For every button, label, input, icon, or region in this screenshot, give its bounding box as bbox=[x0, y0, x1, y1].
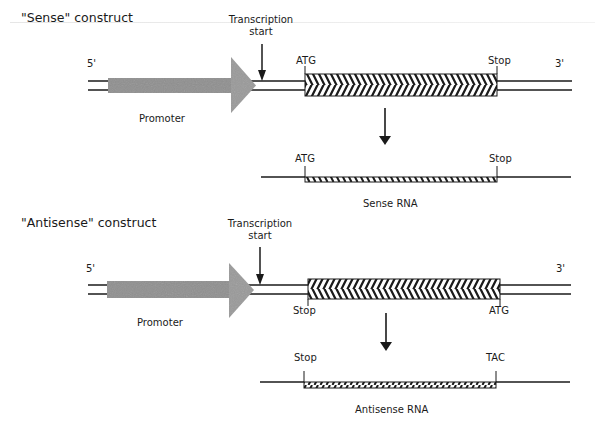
antisense-stop-label: Stop bbox=[293, 305, 316, 317]
antisense-five-prime-label: 5' bbox=[86, 263, 95, 275]
antisense-rna-caption: Antisense RNA bbox=[355, 404, 428, 416]
antisense-rna bbox=[260, 371, 570, 388]
antisense-rna-tac-label: TAC bbox=[486, 352, 505, 364]
sense-transcription-label: Transcription start bbox=[229, 14, 293, 38]
sense-coding-region bbox=[305, 66, 497, 96]
antisense-transcription-label: Transcription start bbox=[228, 218, 292, 242]
sense-transcription-start-arrow bbox=[258, 44, 266, 81]
transcription-label-line1: Transcription bbox=[228, 218, 292, 230]
antisense-coding-region bbox=[308, 279, 500, 306]
sense-rna bbox=[261, 166, 571, 182]
sense-construct-title: "Sense" construct bbox=[21, 11, 133, 25]
antisense-transcription-arrow bbox=[380, 313, 392, 351]
sense-stop-label: Stop bbox=[488, 55, 511, 67]
sense-rna-atg-label: ATG bbox=[295, 153, 315, 165]
antisense-promoter-label: Promoter bbox=[137, 317, 183, 329]
transcription-label-line1: Transcription bbox=[229, 14, 293, 26]
sense-promoter-arrow bbox=[108, 57, 256, 113]
sense-promoter-label: Promoter bbox=[139, 113, 185, 125]
antisense-construct-title: "Antisense" construct bbox=[21, 216, 156, 230]
transcription-label-line2: start bbox=[228, 230, 292, 242]
sense-transcription-arrow bbox=[379, 108, 391, 145]
antisense-atg-label: ATG bbox=[489, 305, 509, 317]
sense-atg-label: ATG bbox=[296, 55, 316, 67]
antisense-three-prime-label: 3' bbox=[556, 263, 565, 275]
transcription-label-line2: start bbox=[229, 26, 293, 38]
antisense-promoter-arrow bbox=[107, 263, 254, 318]
antisense-rna-stop-label: Stop bbox=[294, 352, 317, 364]
sense-rna-stop-label: Stop bbox=[489, 153, 512, 165]
sense-rna-caption: Sense RNA bbox=[363, 198, 418, 210]
sense-five-prime-label: 5' bbox=[87, 58, 96, 70]
antisense-transcription-start-arrow bbox=[256, 247, 264, 285]
sense-three-prime-label: 3' bbox=[555, 58, 564, 70]
